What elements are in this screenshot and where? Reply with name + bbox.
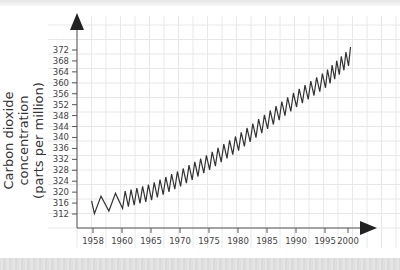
y-tick-label: 336 [53,143,69,153]
y-axis-ticks: 3123163203243283323363403443483523563603… [53,45,77,219]
y-axis-arrow-icon [70,13,84,30]
x-axis-ticks: 1958196019651970197519801985199019952000 [82,228,359,246]
y-tick-label: 344 [53,122,69,132]
y-tick-label: 316 [53,198,69,208]
x-tick-label: 1995 [314,236,336,246]
grid-lines [48,16,400,248]
x-tick-label: 1965 [140,236,162,246]
x-tick-label: 1975 [198,236,220,246]
co2-line-chart: 3123163203243283323363403443483523563603… [0,0,400,270]
x-tick-label: 1990 [285,236,307,246]
x-tick-label: 1970 [169,236,191,246]
x-axis-arrow-icon [360,221,377,235]
y-tick-label: 348 [53,111,69,121]
x-tick-label: 1960 [111,236,133,246]
x-tick-label: 1958 [82,236,104,246]
x-tick-label: 2000 [337,236,359,246]
y-tick-label: 352 [53,100,69,110]
y-axis-label-line1: Carbon dioxide concentration [1,46,31,236]
y-tick-label: 372 [53,45,69,55]
x-tick-label: 1985 [256,236,278,246]
y-tick-label: 360 [53,78,69,88]
y-tick-label: 356 [53,89,69,99]
y-tick-label: 324 [53,176,69,186]
y-tick-label: 312 [53,209,69,219]
y-tick-label: 320 [53,187,69,197]
co2-series-line [92,47,351,214]
x-tick-label: 1980 [227,236,249,246]
y-tick-label: 328 [53,165,69,175]
y-axis-label: Carbon dioxide concentration (parts per … [1,46,46,236]
y-tick-label: 332 [53,154,69,164]
y-tick-label: 364 [53,67,69,77]
y-tick-label: 368 [53,56,69,66]
y-axis-label-line2: (parts per million) [31,46,46,236]
y-tick-label: 340 [53,132,69,142]
